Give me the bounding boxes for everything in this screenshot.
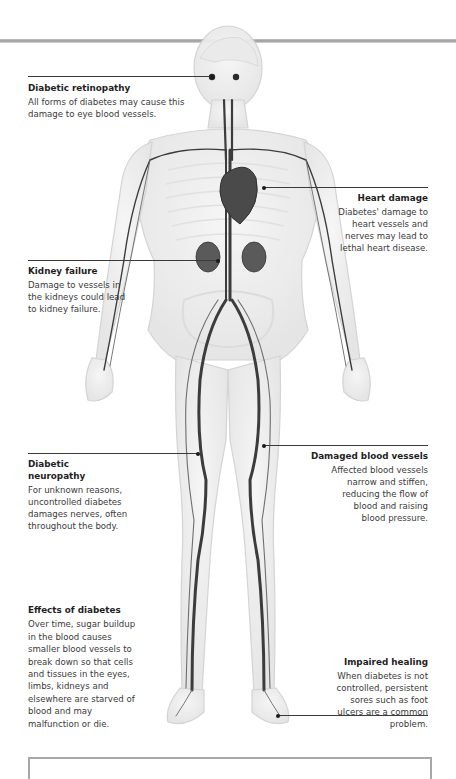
leader-line-retinopathy xyxy=(28,76,212,77)
leader-line-neuropathy xyxy=(28,453,198,454)
annotation-body: Affected blood vessels narrow and stiffe… xyxy=(330,464,428,524)
annotation-diabetic-neuropathy: Diabetic neuropathy For unknown reasons,… xyxy=(28,458,128,532)
annotation-impaired-healing: Impaired healing When diabetes is not co… xyxy=(328,656,428,730)
annotation-diabetic-retinopathy: Diabetic retinopathy All forms of diabet… xyxy=(28,82,208,120)
annotation-damaged-blood-vessels: Damaged blood vessels Affected blood ves… xyxy=(330,450,428,524)
annotation-body: All forms of diabetes may cause this dam… xyxy=(28,96,193,120)
annotation-heart-damage: Heart damage Diabetes' damage to heart v… xyxy=(338,192,428,254)
annotation-title: Kidney failure xyxy=(28,265,128,277)
annotation-body: Diabetes' damage to heart vessels and ne… xyxy=(338,206,428,254)
annotation-kidney-failure: Kidney failure Damage to vessels in the … xyxy=(28,265,128,315)
bottom-caption-box xyxy=(28,757,432,779)
annotation-title: Damaged blood vessels xyxy=(310,450,428,462)
annotation-body: Damage to vessels in the kidneys could l… xyxy=(28,279,128,315)
annotation-body: For unknown reasons, uncontrolled diabet… xyxy=(28,484,128,532)
annotation-title: Effects of diabetes xyxy=(28,604,140,616)
annotation-title: Diabetic neuropathy xyxy=(28,458,128,482)
leader-line-heart xyxy=(264,187,428,188)
annotation-body: When diabetes is not controlled, persist… xyxy=(328,670,428,730)
annotation-effects-of-diabetes: Effects of diabetes Over time, sugar bui… xyxy=(28,604,140,730)
annotation-title: Diabetic retinopathy xyxy=(28,82,208,94)
leader-line-vessels xyxy=(264,445,428,446)
leader-line-kidney xyxy=(28,260,218,261)
annotation-title: Heart damage xyxy=(338,192,428,204)
annotation-title: Impaired healing xyxy=(328,656,428,668)
annotation-body: Over time, sugar buildup in the blood ca… xyxy=(28,618,140,730)
